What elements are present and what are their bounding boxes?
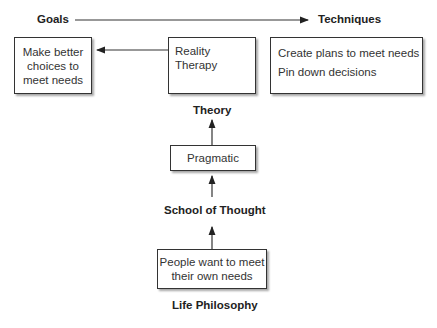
technique-item: Create plans to meet needs [278, 44, 422, 63]
techniques-box: Create plans to meet needs Pin down deci… [270, 37, 423, 94]
life-philosophy-label: Life Philosophy [172, 299, 258, 311]
goals-label: Goals [37, 13, 69, 25]
techniques-label: Techniques [318, 13, 381, 25]
philosophy-box: People want to meet their own needs [157, 249, 267, 289]
philosophy-line: their own needs [171, 269, 252, 283]
philosophy-line: People want to meet [160, 255, 265, 269]
goal-line: choices to [27, 59, 79, 73]
school-text: Pragmatic [187, 151, 239, 165]
theory-label: Theory [193, 104, 231, 116]
goal-box: Make better choices to meet needs [14, 37, 92, 94]
technique-item: Pin down decisions [278, 63, 422, 82]
goal-line: meet needs [23, 73, 83, 87]
theory-box: Reality Therapy [168, 37, 256, 94]
goal-line: Make better [23, 45, 84, 59]
theory-text: Reality Therapy [175, 45, 217, 71]
school-box: Pragmatic [170, 145, 256, 171]
school-of-thought-label: School of Thought [164, 204, 266, 216]
